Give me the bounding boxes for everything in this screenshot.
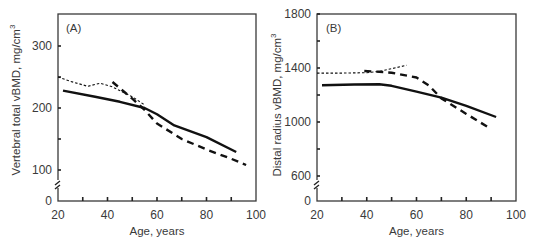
x-tick-label: 80 bbox=[460, 208, 474, 222]
x-tick-label: 20 bbox=[51, 208, 65, 222]
series-dashed-line bbox=[113, 82, 247, 165]
x-tick-label: 100 bbox=[246, 208, 266, 222]
series-solid-line bbox=[322, 84, 496, 117]
panel-label: (B) bbox=[326, 22, 342, 34]
x-tick-label: 20 bbox=[310, 208, 324, 222]
y-tick-label: 1800 bbox=[284, 7, 311, 21]
panel-label: (A) bbox=[66, 22, 82, 34]
y-tick-label: 100 bbox=[32, 163, 52, 177]
plot-frame bbox=[58, 14, 256, 201]
x-tick-label: 80 bbox=[200, 208, 214, 222]
y-tick-label: 0 bbox=[304, 194, 311, 208]
y-tick-label: 1400 bbox=[284, 61, 311, 75]
x-axis-label: Age, years bbox=[130, 225, 185, 237]
x-tick-label: 60 bbox=[410, 208, 424, 222]
x-axis-label: Age, years bbox=[389, 225, 444, 237]
y-axis-label: Distal radius vBMD, mg/cm3 bbox=[269, 33, 283, 177]
panel-b-distal-radius-chart: 060010001400180020406080100Age, yearsDis… bbox=[269, 7, 526, 237]
y-tick-label: 300 bbox=[32, 39, 52, 53]
series-solid-line bbox=[63, 91, 236, 152]
x-tick-label: 100 bbox=[506, 208, 526, 222]
y-axis-label: Vertebral total vBMD, mg/cm3 bbox=[8, 24, 22, 175]
y-tick-label: 200 bbox=[32, 101, 52, 115]
x-tick-label: 60 bbox=[150, 208, 164, 222]
x-tick-label: 40 bbox=[101, 208, 115, 222]
y-tick-label: 0 bbox=[45, 194, 52, 208]
plot-frame bbox=[317, 14, 516, 201]
y-tick-label: 1000 bbox=[284, 115, 311, 129]
panel-a-vertebral-chart: 010020030020406080100Age, yearsVertebral… bbox=[8, 14, 266, 237]
y-tick-label: 600 bbox=[291, 169, 311, 183]
series-dashed-line bbox=[364, 71, 491, 129]
figure: 010020030020406080100Age, yearsVertebral… bbox=[0, 0, 534, 248]
x-tick-label: 40 bbox=[360, 208, 374, 222]
